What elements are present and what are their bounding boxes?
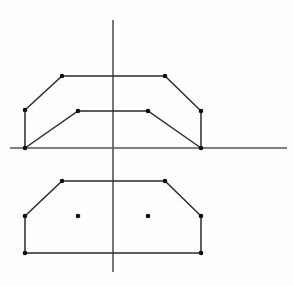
vertex-dot xyxy=(76,214,81,219)
vertex-dot xyxy=(199,251,204,256)
diagram-canvas xyxy=(0,0,293,286)
vertex-dot xyxy=(23,108,28,113)
vertex-dot xyxy=(76,109,81,114)
vertex-dot xyxy=(163,179,168,184)
vertex-dot xyxy=(146,214,151,219)
vertex-dot xyxy=(163,74,168,79)
vertex-dot xyxy=(60,179,65,184)
vertex-dot xyxy=(199,109,204,114)
vertex-dot xyxy=(199,214,204,219)
vertex-dot xyxy=(146,109,151,114)
line-diagram xyxy=(0,0,293,286)
vertex-dot xyxy=(199,146,204,151)
vertex-dot xyxy=(23,251,28,256)
vertex-dot xyxy=(23,214,28,219)
vertex-dot xyxy=(23,146,28,151)
axes-group xyxy=(10,20,287,272)
vertex-dot xyxy=(60,74,65,79)
